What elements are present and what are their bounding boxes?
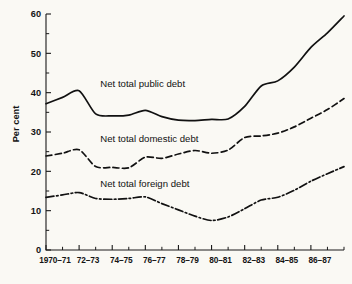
x-tick-label: 72–73: [77, 255, 100, 265]
x-tick-label: 82–83: [242, 255, 265, 265]
x-tick-label: 1970–71: [39, 255, 71, 265]
y-axis-title: Per cent: [11, 106, 21, 143]
x-tick-label: 78–79: [176, 255, 199, 265]
line-chart: 0102030405060 1970–7172–7374–7576–7778–7…: [0, 0, 352, 284]
y-axis-title-group: Per cent: [11, 106, 21, 143]
series-label: Net total foreign debt: [100, 178, 189, 189]
x-tick-label: 80–81: [209, 255, 232, 265]
y-tick-label: 30: [31, 127, 41, 137]
x-tick-label: 76–77: [143, 255, 166, 265]
x-tick-label: 74–75: [110, 255, 133, 265]
series-label: Net total domestic debt: [100, 133, 198, 144]
y-tick-label: 40: [31, 88, 41, 98]
series-label: Net total public debt: [100, 78, 185, 89]
chart-container: 0102030405060 1970–7172–7374–7576–7778–7…: [0, 0, 352, 284]
y-tick-label: 0: [36, 245, 41, 255]
y-tick-label: 60: [31, 9, 41, 19]
x-axis-tick-labels: 1970–7172–7374–7576–7778–7980–8182–8384–…: [39, 255, 331, 265]
x-tick-label: 84–85: [275, 255, 298, 265]
y-tick-label: 10: [31, 206, 41, 216]
y-tick-label: 50: [31, 49, 41, 59]
y-tick-label: 20: [31, 167, 41, 177]
x-tick-label: 86–87: [309, 255, 332, 265]
